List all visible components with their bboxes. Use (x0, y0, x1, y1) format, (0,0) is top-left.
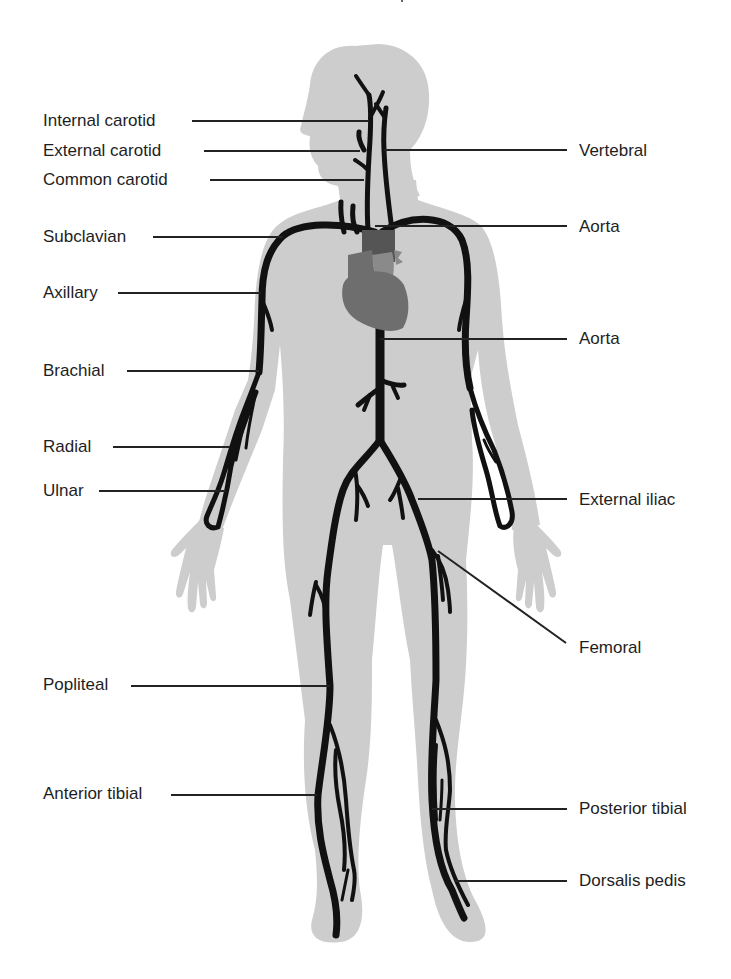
label-external-carotid: External carotid (43, 141, 161, 161)
label-external-iliac: External iliac (579, 490, 675, 510)
label-ulnar: Ulnar (43, 481, 84, 501)
label-internal-carotid: Internal carotid (43, 111, 155, 131)
label-popliteal: Popliteal (43, 675, 108, 695)
label-dorsalis-pedis: Dorsalis pedis (579, 871, 686, 891)
label-brachial: Brachial (43, 361, 104, 381)
label-axillary: Axillary (43, 283, 98, 303)
label-radial: Radial (43, 437, 91, 457)
label-common-carotid: Common carotid (43, 170, 168, 190)
label-anterior-tibial: Anterior tibial (43, 784, 142, 804)
label-posterior-tibial: Posterior tibial (579, 799, 687, 819)
label-aorta-descending: Aorta (579, 329, 620, 349)
label-femoral: Femoral (579, 638, 641, 658)
label-subclavian: Subclavian (43, 227, 126, 247)
label-vertebral: Vertebral (579, 141, 647, 161)
label-aorta-arch: Aorta (579, 217, 620, 237)
